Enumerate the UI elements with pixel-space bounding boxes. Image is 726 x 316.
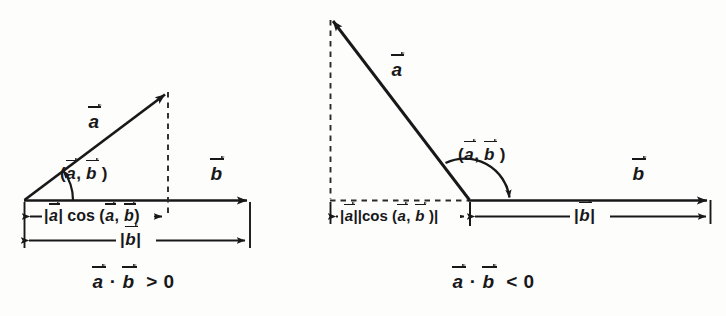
vector-b-label-left: b	[210, 164, 223, 183]
caption-left: a · b > 0	[92, 272, 174, 291]
angle-arc-right	[446, 159, 510, 198]
vector-b-label-right: b	[632, 164, 645, 183]
projection-label-right: |a||cos (a, b )|	[340, 208, 438, 223]
vector-a-label-left: a	[88, 112, 100, 131]
magnitude-label-left: |b|	[120, 231, 141, 248]
vector-a-arrow-right	[333, 21, 470, 200]
angle-label-right: (a, b )	[458, 146, 505, 163]
caption-right: a · b < 0	[452, 272, 534, 291]
projection-label-left: |a| cos (a, b)	[44, 208, 140, 224]
dot-product-figure: a b (a, b ) |a| cos (a, b) |b| a · b > 0…	[0, 0, 726, 316]
panel-negative	[330, 20, 711, 226]
angle-label-left: (a, b )	[60, 165, 107, 182]
vector-a-label-right: a	[391, 60, 403, 79]
magnitude-label-right: |b|	[574, 207, 595, 224]
figure-canvas	[0, 0, 726, 316]
